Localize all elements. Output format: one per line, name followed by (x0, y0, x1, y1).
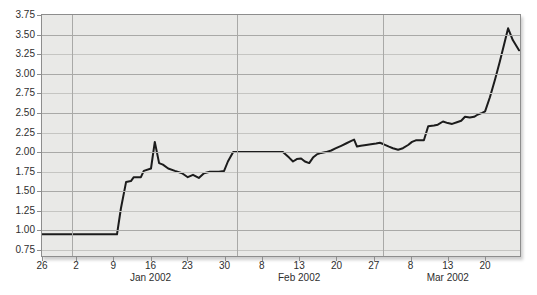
x-axis-label: 16 (136, 260, 166, 272)
y-axis-tick (37, 35, 41, 36)
month-boundary-gridline (383, 15, 384, 256)
y-axis-label: 1.50 (5, 185, 35, 197)
plot-area (41, 14, 521, 257)
y-axis-label: 2.00 (5, 146, 35, 158)
y-gridline (42, 54, 520, 55)
y-axis-label: 2.50 (5, 107, 35, 119)
price-series-line (42, 15, 520, 256)
x-axis-label: 27 (359, 260, 389, 272)
y-axis-tick (37, 15, 41, 16)
y-gridline (42, 133, 520, 134)
y-gridline (42, 191, 520, 192)
y-axis-label: 0.75 (5, 244, 35, 256)
month-label: Jan 2002 (114, 272, 188, 284)
y-axis-tick (37, 74, 41, 75)
y-gridline (42, 250, 520, 251)
x-axis-label: 2 (61, 260, 91, 272)
y-axis-tick (37, 133, 41, 134)
month-boundary-gridline (72, 15, 73, 256)
y-axis-label: 3.00 (5, 68, 35, 80)
y-gridline (42, 172, 520, 173)
x-axis-label: 13 (433, 260, 463, 272)
y-axis-tick (37, 250, 41, 251)
y-gridline (42, 152, 520, 153)
x-axis-label: 8 (247, 260, 277, 272)
y-axis-label: 1.00 (5, 224, 35, 236)
y-axis-tick (37, 191, 41, 192)
y-axis-tick (37, 211, 41, 212)
y-axis-label: 1.25 (5, 205, 35, 217)
y-axis-label: 2.75 (5, 87, 35, 99)
y-gridline (42, 93, 520, 94)
month-label: Mar 2002 (411, 272, 485, 284)
y-gridline (42, 113, 520, 114)
y-axis-tick (37, 93, 41, 94)
y-axis-label: 3.25 (5, 48, 35, 60)
y-axis-tick (37, 230, 41, 231)
line-chart: 3.753.503.253.002.752.502.252.001.751.50… (0, 0, 537, 295)
y-axis-label: 2.25 (5, 127, 35, 139)
y-axis-tick (37, 54, 41, 55)
x-axis-label: 9 (98, 260, 128, 272)
y-gridline (42, 74, 520, 75)
month-label: Feb 2002 (262, 272, 336, 284)
y-axis-tick (37, 152, 41, 153)
y-axis-tick (37, 113, 41, 114)
x-axis-label: 20 (470, 260, 500, 272)
y-gridline (42, 211, 520, 212)
x-axis-label: 20 (321, 260, 351, 272)
y-gridline (42, 35, 520, 36)
x-axis-label: 8 (396, 260, 426, 272)
y-axis-label: 1.75 (5, 166, 35, 178)
y-axis-tick (37, 172, 41, 173)
y-gridline (42, 230, 520, 231)
x-axis-label: 23 (172, 260, 202, 272)
y-axis-label: 3.50 (5, 29, 35, 41)
x-axis-label: 13 (284, 260, 314, 272)
month-boundary-gridline (237, 15, 238, 256)
y-axis-label: 3.75 (5, 9, 35, 21)
x-axis-label: 26 (27, 260, 57, 272)
x-axis-label: 30 (210, 260, 240, 272)
